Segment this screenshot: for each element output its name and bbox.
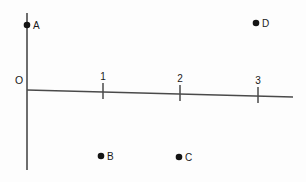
point-label-d: D [262, 18, 269, 29]
figure-canvas: 1 2 3 O A D B C [0, 0, 306, 182]
data-point-c: C [176, 152, 193, 163]
point-dot-c [176, 154, 183, 161]
point-label-c: C [185, 152, 192, 163]
origin-label: O [15, 74, 23, 86]
tick-label-1: 1 [100, 71, 106, 82]
point-dot-d [253, 20, 260, 27]
point-dot-a [24, 22, 31, 29]
data-point-b: B [98, 151, 114, 162]
coordinate-axis-diagram: 1 2 3 O A D B C [0, 0, 306, 182]
tick-label-2: 2 [177, 73, 183, 84]
point-label-a: A [33, 20, 40, 31]
point-dot-b [98, 153, 105, 160]
data-point-a: A [24, 20, 40, 31]
x-axis-line [27, 90, 293, 97]
data-point-d: D [253, 18, 270, 29]
tick-label-3: 3 [255, 75, 261, 86]
point-label-b: B [107, 151, 114, 162]
x-axis-tick-labels: 1 2 3 [100, 71, 261, 86]
